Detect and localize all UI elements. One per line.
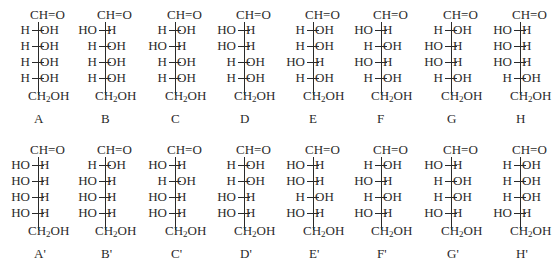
- right-substituent: H: [40, 173, 49, 188]
- left-substituent: H: [296, 38, 305, 53]
- right-substituent: H: [315, 157, 324, 172]
- left-substituent: HO: [11, 205, 30, 220]
- stereocenter-row: HOH: [275, 173, 345, 188]
- oh-text: OH: [188, 223, 207, 238]
- right-substituent: OH: [453, 189, 472, 204]
- stereocenter-row: HOH: [0, 38, 70, 53]
- aldehyde-group: CH=O: [236, 7, 271, 22]
- structure-label: A: [34, 111, 43, 126]
- right-substituent: H: [246, 22, 255, 37]
- left-substituent: H: [364, 189, 373, 204]
- right-substituent: OH: [383, 189, 402, 204]
- hydroxymethyl-group: CH2OH: [234, 223, 275, 238]
- structure-label: E: [309, 111, 317, 126]
- left-substituent: H: [434, 189, 443, 204]
- stereocenter-row: HOH: [206, 173, 276, 188]
- right-substituent: H: [453, 205, 462, 220]
- stereocenter-row: HOH: [275, 205, 345, 220]
- oh-text: OH: [326, 88, 345, 103]
- aldehyde-group: CH=O: [512, 7, 547, 22]
- hydroxymethyl-group: CH2OH: [95, 223, 136, 238]
- right-substituent: H: [246, 38, 255, 53]
- right-substituent: OH: [383, 38, 402, 53]
- ch-text: CH: [165, 88, 183, 103]
- hydroxymethyl-group: CH2OH: [165, 88, 206, 103]
- ch-text: CH: [303, 223, 321, 238]
- structure-label: F': [377, 246, 387, 261]
- left-substituent: HO: [217, 38, 236, 53]
- oh-text: OH: [118, 88, 137, 103]
- left-substituent: H: [364, 157, 373, 172]
- right-substituent: H: [40, 157, 49, 172]
- structure-label: F: [377, 111, 384, 126]
- stereocenter-row: HOH: [206, 70, 276, 85]
- stereocenter-row: HOH: [343, 70, 413, 85]
- stereocenter-row: HOH: [67, 173, 137, 188]
- right-substituent: OH: [107, 157, 126, 172]
- right-substituent: OH: [246, 70, 265, 85]
- left-substituent: H: [227, 70, 236, 85]
- right-substituent: H: [107, 22, 116, 37]
- left-substituent: HO: [78, 22, 97, 37]
- stereocenter-row: HOH: [482, 157, 552, 172]
- stereocenter-row: HOH: [67, 189, 137, 204]
- stereocenter-row: HOH: [206, 22, 276, 37]
- right-substituent: H: [107, 205, 116, 220]
- right-substituent: OH: [107, 70, 126, 85]
- right-substituent: OH: [522, 189, 541, 204]
- right-substituent: OH: [383, 70, 402, 85]
- aldehyde-group: CH=O: [373, 142, 408, 157]
- aldehyde-group: CH=O: [30, 142, 65, 157]
- stereocenter-row: HOH: [343, 38, 413, 53]
- hydroxymethyl-group: CH2OH: [165, 223, 206, 238]
- left-substituent: HO: [217, 22, 236, 37]
- right-substituent: OH: [315, 70, 334, 85]
- left-substituent: H: [434, 22, 443, 37]
- aldehyde-group: CH=O: [167, 7, 202, 22]
- left-substituent: H: [158, 173, 167, 188]
- stereocenter-row: HOH: [206, 189, 276, 204]
- right-substituent: H: [453, 157, 462, 172]
- right-substituent: H: [177, 189, 186, 204]
- stereocenter-row: HOH: [137, 54, 207, 69]
- structure-label: B: [101, 111, 110, 126]
- stereocenter-row: HOH: [67, 22, 137, 37]
- stereocenter-row: HOH: [413, 189, 483, 204]
- left-substituent: HO: [217, 205, 236, 220]
- right-substituent: H: [453, 38, 462, 53]
- right-substituent: OH: [383, 157, 402, 172]
- left-substituent: HO: [148, 38, 167, 53]
- stereocenter-row: HOH: [275, 38, 345, 53]
- fischer-structure-h: CH=OHOHHOHHOHHOHCH2OHH: [482, 7, 552, 137]
- aldehyde-group: CH=O: [373, 7, 408, 22]
- stereocenter-row: HOH: [0, 157, 70, 172]
- right-substituent: H: [383, 173, 392, 188]
- fischer-structure-f: CH=OHOHHOHHOHHOHCH2OHF: [343, 7, 413, 137]
- ch-text: CH: [234, 88, 252, 103]
- right-substituent: OH: [40, 38, 59, 53]
- right-substituent: OH: [522, 70, 541, 85]
- right-substituent: OH: [315, 189, 334, 204]
- left-substituent: H: [296, 70, 305, 85]
- left-substituent: H: [503, 173, 512, 188]
- right-substituent: H: [177, 205, 186, 220]
- right-substituent: OH: [246, 54, 265, 69]
- right-substituent: H: [383, 22, 392, 37]
- stereocenter-row: HOH: [206, 54, 276, 69]
- fischer-structure-eprime: CH=OHOHHOHHOHHOHCH2OHE': [275, 142, 345, 272]
- left-substituent: H: [88, 54, 97, 69]
- structure-label: C': [171, 246, 182, 261]
- hydroxymethyl-group: CH2OH: [28, 223, 69, 238]
- stereocenter-row: HOH: [482, 205, 552, 220]
- structure-label: G: [447, 111, 456, 126]
- hydroxymethyl-group: CH2OH: [371, 88, 412, 103]
- stereocenter-row: HOH: [206, 38, 276, 53]
- left-substituent: H: [21, 38, 30, 53]
- stereocenter-row: HOH: [67, 38, 137, 53]
- aldehyde-group: CH=O: [167, 142, 202, 157]
- left-substituent: HO: [354, 173, 373, 188]
- stereocenter-row: HOH: [137, 205, 207, 220]
- right-substituent: H: [315, 205, 324, 220]
- right-substituent: H: [522, 205, 531, 220]
- right-substituent: H: [40, 205, 49, 220]
